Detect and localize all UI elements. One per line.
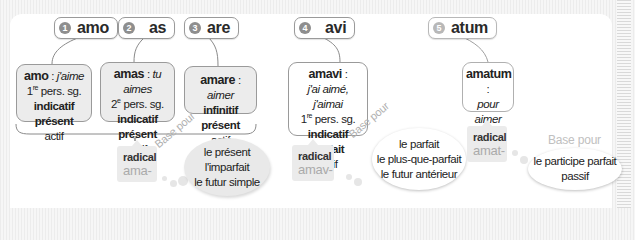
- card-head: amas: [114, 67, 144, 81]
- number-5-icon: 5: [433, 22, 445, 34]
- number-1-icon: 1: [59, 22, 71, 34]
- form-pill-2: 2 as: [118, 17, 175, 39]
- card-mood: infinitif présent: [201, 104, 240, 131]
- number-4-icon: 4: [299, 22, 311, 34]
- use-item: passif: [561, 169, 589, 184]
- use-item: le futur antérieur: [381, 167, 458, 182]
- card-head: amo: [24, 69, 49, 83]
- radical-ama: radical ama-: [117, 146, 157, 182]
- form-word: as: [149, 19, 166, 37]
- form-pill-4: 4 avi: [294, 17, 355, 39]
- page-edge-rule: [617, 0, 631, 208]
- form-pill-3: 3 are: [184, 17, 239, 39]
- card-translation: j'ai aimé, j'aimai: [307, 83, 348, 110]
- thought-dot: [354, 178, 362, 186]
- form-word: are: [207, 19, 230, 37]
- card-head: amatum: [466, 67, 512, 81]
- card-person: 2e pers. sg.: [104, 97, 171, 112]
- radical-stem: amav-: [298, 163, 328, 176]
- number-2-icon: 2: [123, 22, 135, 34]
- card-person: 1re pers. sg.: [20, 84, 88, 99]
- radical-stem: ama-: [123, 164, 151, 177]
- number-3-icon: 3: [189, 22, 201, 34]
- thought-dot: [512, 150, 518, 156]
- thought-dot: [162, 176, 167, 181]
- card-translation: j'aime: [57, 70, 84, 82]
- card-translation: aimer: [207, 89, 234, 101]
- form-pill-1: 1 amo: [54, 17, 118, 39]
- radical-stem: amat-: [473, 144, 501, 157]
- use-item: le plus-que-parfait: [377, 152, 461, 167]
- uses-bubble-1: le présent l'imparfait le futur simple: [184, 138, 270, 196]
- use-item: le futur simple: [194, 175, 260, 190]
- use-item: le présent: [204, 145, 251, 160]
- radical-amat: radical amat-: [467, 126, 507, 162]
- form-word: amo: [77, 19, 109, 37]
- card-amare: amare : aimer infinitif présent actif: [184, 66, 257, 114]
- card-mood: indicatif présent: [117, 113, 158, 140]
- form-word: avi: [325, 19, 346, 37]
- radical-amav: radical amav-: [292, 145, 334, 181]
- card-mood: indicatif présent: [34, 100, 75, 127]
- card-amatum: amatum : pour aimer supin: [462, 62, 514, 112]
- card-voice: actif: [20, 129, 88, 144]
- card-head: amare: [200, 73, 235, 87]
- card-amas: amas : tu aimes 2e pers. sg. indicatif p…: [100, 62, 175, 122]
- thought-dot: [520, 156, 528, 164]
- card-amo: amo : j'aime 1re pers. sg. indicatif pré…: [16, 64, 92, 122]
- thought-dot: [346, 174, 352, 180]
- thought-dot: [170, 180, 177, 187]
- use-item: l'imparfait: [205, 160, 249, 175]
- uses-bubble-3: le participe parfait passif: [528, 148, 622, 190]
- card-head: amavi: [308, 67, 341, 81]
- form-word: atum: [451, 19, 488, 37]
- use-item: le participe parfait: [534, 154, 617, 169]
- uses-bubble-2: le parfait le plus-que-parfait le futur …: [372, 128, 466, 190]
- form-pill-5: 5 atum: [428, 17, 497, 39]
- base-pour-label: Base pour: [548, 133, 601, 147]
- use-item: le parfait: [399, 137, 439, 152]
